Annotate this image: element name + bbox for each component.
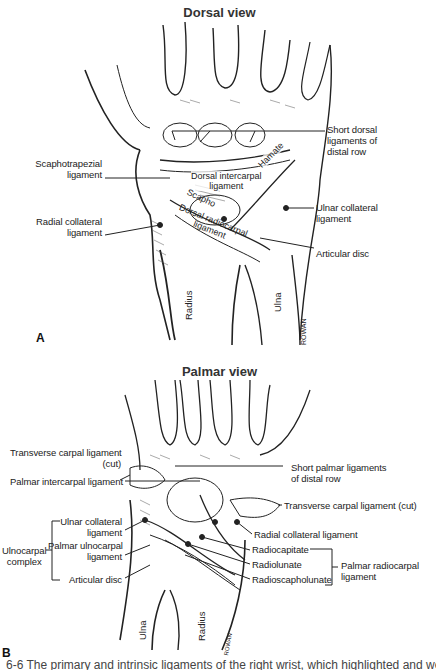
label-ulnar-collateral-ligament-palmar: Ulnar collateral ligament	[50, 516, 122, 538]
label-ulnar-collateral-ligament: Ulnar collateral ligament	[316, 202, 378, 224]
label-radiocapitate: Radiocapitate	[252, 544, 309, 555]
panel-letter-a: A	[36, 331, 45, 345]
label-short-dorsal-ligaments: Short dorsal ligaments of distal row	[327, 124, 377, 157]
label-articular-disc-dorsal: Articular disc	[316, 248, 369, 259]
label-transverse-carpal-ligament-cut-right: Transverse carpal ligament (cut)	[284, 500, 417, 511]
artist-signature-a: ROWAN	[300, 318, 307, 345]
label-radius-palmar: Radius	[196, 611, 207, 641]
label-palmar-radiocarpal-ligament: Palmar radiocarpal ligament	[341, 560, 419, 582]
label-articular-disc-palmar: Articular disc	[48, 574, 122, 585]
label-dorsal-intercarpal-ligament: Dorsal intercarpal ligament	[191, 171, 262, 191]
figure-caption: 6-6 The primary and intrinsic ligaments …	[6, 658, 436, 670]
label-ulna-dorsal: Ulna	[272, 292, 283, 312]
label-short-palmar-ligaments: Short palmar ligaments of distal row	[291, 462, 386, 484]
label-ulnocarpal-complex: Ulnocarpal complex	[2, 545, 46, 567]
label-radial-collateral-ligament-palmar: Radial collateral ligament	[254, 529, 358, 540]
label-radius-dorsal: Radius	[183, 290, 194, 320]
palmar-view-title: Palmar view	[0, 364, 439, 379]
label-radiolunate: Radiolunate	[252, 559, 302, 570]
label-radioscapholunate: Radioscapholunate	[252, 574, 332, 585]
label-scaphotrapezial-ligament: Scaphotrapezial ligament	[30, 158, 102, 180]
label-palmar-intercarpal-ligament: Palmar intercarpal ligament	[10, 476, 122, 487]
label-radial-collateral-ligament: Radial collateral ligament	[30, 216, 102, 238]
label-ulna-palmar: Ulna	[137, 620, 148, 640]
label-palmar-ulnocarpal-ligament: Palmar ulnocarpal ligament	[48, 540, 122, 562]
label-transverse-carpal-ligament-cut-left: Transverse carpal ligament (cut)	[10, 447, 121, 469]
